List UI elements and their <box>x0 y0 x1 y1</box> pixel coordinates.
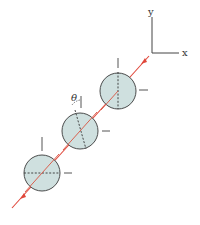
x-axis-label: x <box>182 47 188 58</box>
theta-label: θ <box>71 92 77 103</box>
coordinate-axes: y x <box>147 6 188 58</box>
diagram-svg: y x θ <box>0 0 200 225</box>
y-axis-label: y <box>147 6 154 17</box>
bottom-disk <box>24 137 72 192</box>
diagram-canvas: y x θ <box>0 0 200 225</box>
